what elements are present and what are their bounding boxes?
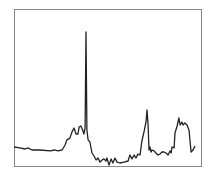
plot-frame [15, 10, 202, 167]
line-chart [0, 0, 213, 187]
